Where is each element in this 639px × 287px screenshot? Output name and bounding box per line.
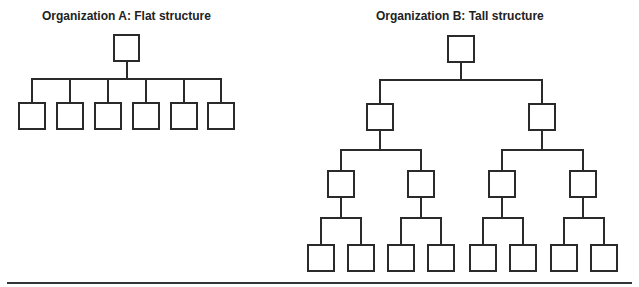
org-b-level3-node xyxy=(488,170,516,198)
org-b-connector xyxy=(563,217,565,244)
org-b-level4-node xyxy=(427,244,455,272)
org-a-branch-line xyxy=(32,78,222,80)
org-a-subordinate-node xyxy=(18,102,46,130)
org-b-branch-line xyxy=(340,149,422,151)
org-b-connector xyxy=(400,217,402,244)
org-b-connector xyxy=(541,79,543,103)
org-b-branch-line xyxy=(501,149,584,151)
org-b-top-node xyxy=(447,35,475,63)
org-b-connector xyxy=(320,217,322,244)
org-b-connector xyxy=(379,131,381,150)
org-a-connector xyxy=(69,78,71,102)
org-b-branch-line xyxy=(482,217,524,219)
org-b-connector xyxy=(420,198,422,218)
org-b-branch-line xyxy=(563,217,605,219)
org-b-connector xyxy=(482,217,484,244)
bottom-divider xyxy=(7,282,632,284)
org-b-connector xyxy=(460,63,462,80)
org-a-top-node xyxy=(113,34,140,62)
org-b-branch-line xyxy=(320,217,362,219)
org-b-branch-line xyxy=(379,79,543,81)
org-b-level4-node xyxy=(550,244,578,272)
org-a-connector xyxy=(31,78,33,102)
org-b-level4-node xyxy=(509,244,537,272)
org-a-subordinate-node xyxy=(56,102,84,130)
org-a-connector xyxy=(107,78,109,102)
org-a-subordinate-node xyxy=(94,102,122,130)
org-b-connector xyxy=(501,149,503,170)
org-a-connector xyxy=(220,78,222,102)
org-b-connector xyxy=(360,217,362,244)
org-b-connector xyxy=(603,217,605,244)
org-b-connector xyxy=(582,149,584,170)
org-a-subordinate-node xyxy=(207,102,235,130)
org-b-connector xyxy=(420,149,422,170)
org-b-level4-node xyxy=(387,244,415,272)
org-b-level4-node xyxy=(347,244,375,272)
org-b-level4-node xyxy=(469,244,497,272)
org-b-connector xyxy=(522,217,524,244)
org-b-title: Organization B: Tall structure xyxy=(376,9,544,23)
org-b-connector xyxy=(340,149,342,170)
org-b-level3-node xyxy=(327,170,355,198)
org-b-level3-node xyxy=(569,170,597,198)
org-b-connector xyxy=(440,217,442,244)
org-b-connector xyxy=(501,198,503,218)
org-a-title: Organization A: Flat structure xyxy=(42,9,211,23)
org-b-level4-node xyxy=(590,244,618,272)
org-a-subordinate-node xyxy=(170,102,198,130)
org-b-level2-node xyxy=(528,103,556,131)
org-a-connector xyxy=(183,78,185,102)
org-a-subordinate-node xyxy=(132,102,160,130)
org-b-connector xyxy=(582,198,584,218)
org-a-connector xyxy=(145,78,147,102)
org-b-connector xyxy=(541,131,543,150)
org-b-connector xyxy=(340,198,342,218)
org-b-level4-node xyxy=(307,244,335,272)
org-b-level3-node xyxy=(407,170,435,198)
org-b-branch-line xyxy=(400,217,442,219)
org-b-level2-node xyxy=(366,103,394,131)
org-b-connector xyxy=(379,79,381,103)
